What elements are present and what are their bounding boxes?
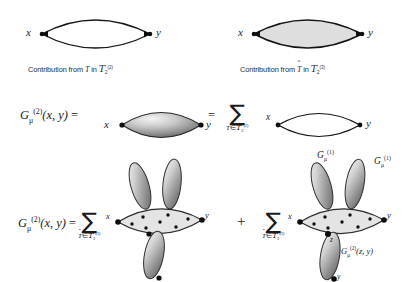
- node-label-x: x: [26, 26, 31, 38]
- eq1-equals-2-wrap: =: [208, 108, 215, 123]
- eq1-equals-1: =: [71, 108, 78, 122]
- eq1-lhs-args: (x, y): [42, 108, 68, 122]
- caption-set-sub: 2: [105, 70, 107, 75]
- eq2-sum-right-subscript: T∈T2(3): [262, 231, 284, 240]
- sum-set-sub: 2: [277, 236, 279, 241]
- eq2-sum-left-subscript: T∈T2(3): [78, 231, 100, 240]
- node-label-y-bottom: y: [337, 272, 340, 281]
- sigma-icon: ∑: [226, 104, 248, 124]
- caption-top-right: Contribution from T in T2(3): [240, 63, 325, 74]
- eq2-lhs-args: (x, y): [40, 216, 66, 230]
- caption-symbol-T-hat: T: [297, 65, 301, 74]
- eq1-summation: ∑ T∈T2(2): [226, 104, 248, 132]
- label-lobe-1-G: Gμ(1): [317, 150, 334, 160]
- caption-prefix: Contribution from: [240, 65, 295, 74]
- node-label-x: x: [106, 211, 110, 221]
- eq1-lhs-symbol: G: [20, 108, 29, 122]
- node-label-x: x: [266, 112, 270, 122]
- sigma-icon: ∑: [262, 212, 284, 232]
- sum-member-hat: T: [262, 232, 266, 240]
- eq2-summation-left: ∑ T∈T2(3): [78, 212, 100, 240]
- sum-set-sub: 2: [241, 128, 243, 133]
- node-label-y: y: [368, 26, 373, 38]
- eq1-equals-2: =: [208, 108, 215, 122]
- three-lobe-graph-left-svg: [110, 160, 216, 280]
- eq2-graph-right: x y z y: [292, 160, 398, 280]
- lobe3-args: (z, y): [356, 246, 373, 256]
- plus-sign: +: [237, 213, 245, 229]
- node-label-y: y: [387, 210, 391, 220]
- caption-set-sub: 2: [317, 70, 319, 75]
- node-label-x: x: [104, 118, 109, 130]
- figure-canvas: x y Contribution from T in T2(2) x y Con…: [0, 0, 412, 282]
- lobe1-symbol: G: [317, 150, 324, 160]
- eq1-outline-lens: x y: [264, 104, 384, 146]
- eq2-equals: =: [69, 216, 76, 230]
- eq2-lhs-sub: μ: [27, 224, 31, 233]
- caption-set-sup: (3): [320, 65, 325, 70]
- caption-prefix: Contribution from: [28, 65, 83, 74]
- eq2-summation-right: ∑ T∈T2(3): [262, 212, 284, 240]
- node-label-y: y: [156, 26, 161, 38]
- node-label-z: z: [330, 235, 333, 244]
- lobe2-symbol: G: [374, 156, 381, 166]
- caption-top-left: Contribution from T in T2(2): [28, 63, 113, 74]
- caption-middle: in: [303, 65, 309, 74]
- sigma-icon: ∑: [78, 212, 100, 232]
- eq2-plus: +: [237, 213, 245, 230]
- panel-top-right: x y: [240, 8, 390, 60]
- sum-set-sup: (3): [95, 230, 100, 235]
- node-label-y: y: [205, 210, 209, 220]
- caption-set-sup: (2): [108, 65, 113, 70]
- label-lobe-2-G: Gμ(1): [374, 156, 391, 166]
- label-lobe-3-G: Gμ(2)(z, y): [341, 246, 373, 256]
- node-label-y: y: [366, 117, 371, 129]
- eq1-lhs-sub: μ: [29, 116, 33, 125]
- sum-member-hat: T: [78, 232, 82, 240]
- caption-symbol-T: T: [85, 65, 89, 74]
- panel-top-left: x y: [28, 8, 178, 60]
- lobe3-sub: μ: [347, 252, 350, 258]
- eq2-graph-left: x y: [110, 160, 216, 280]
- eq2-lhs: Gμ(2)(x, y) =: [18, 216, 76, 231]
- caption-middle: in: [91, 65, 97, 74]
- sum-set-sup: (2): [243, 122, 248, 127]
- eq1-lhs: Gμ(2)(x, y) =: [20, 108, 78, 123]
- three-lobe-graph-right-svg: [292, 160, 398, 280]
- sum-set-sub: 2: [93, 236, 95, 241]
- eq1-sum-subscript: T∈T2(2): [226, 123, 248, 132]
- lobe2-sub: μ: [381, 162, 384, 168]
- lobe2-sup: (1): [384, 155, 391, 161]
- eq1-lhs-sup: (2): [33, 107, 42, 116]
- eq2-lhs-sup: (2): [31, 215, 40, 224]
- sum-set-sup: (3): [279, 230, 284, 235]
- eq1-gradient-lens: x y: [113, 104, 223, 146]
- lobe1-sup: (1): [327, 149, 334, 155]
- node-label-x: x: [288, 211, 292, 221]
- eq2-lhs-symbol: G: [18, 216, 27, 230]
- node-label-x: x: [238, 26, 243, 38]
- lobe1-sub: μ: [324, 156, 327, 162]
